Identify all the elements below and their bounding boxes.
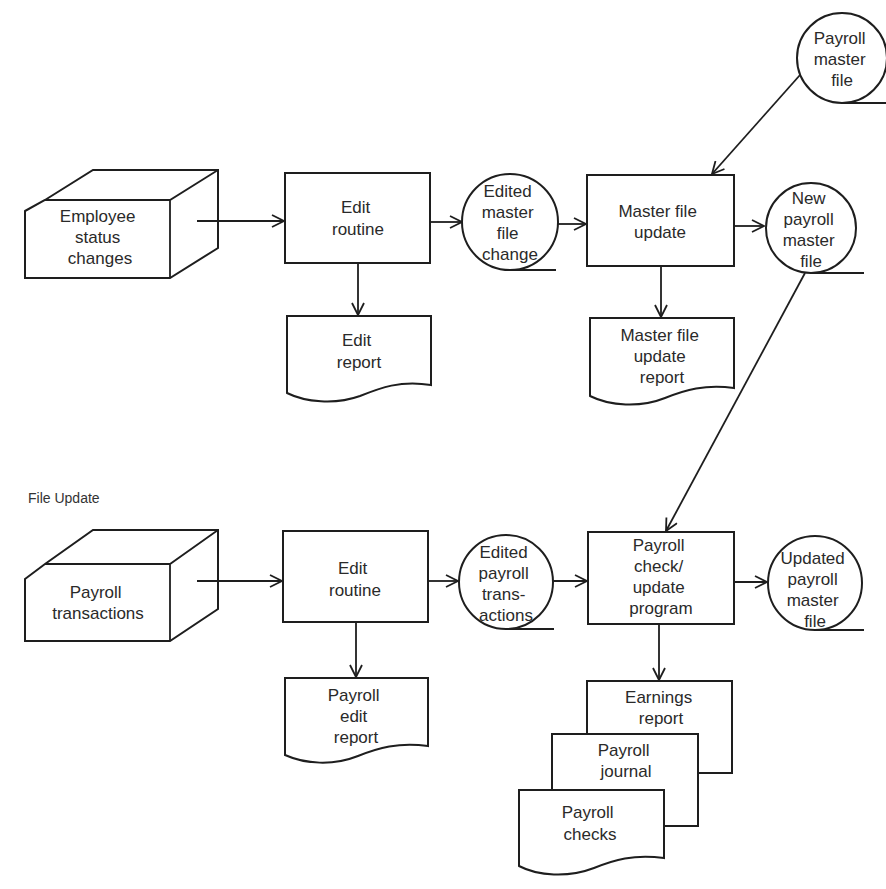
new-payroll-master-file-tape: New payroll master file bbox=[766, 183, 864, 273]
payroll-system-flowchart: Employee status changes Edit routine Edi… bbox=[0, 0, 886, 889]
edit-routine-process-bottom: Edit routine bbox=[283, 531, 428, 622]
employee-status-changes-input: Employee status changes bbox=[25, 170, 218, 278]
edited-payroll-transactions-tape: Edited payroll trans- actions bbox=[459, 535, 554, 629]
edit-routine-process-top: Edit routine bbox=[285, 173, 430, 263]
master-file-update-report-document: Master file update report bbox=[590, 318, 734, 405]
payroll-master-file-tape: Payroll master file bbox=[797, 13, 886, 103]
edited-master-file-change-tape: Edited master file change bbox=[462, 174, 558, 270]
flow-arrow bbox=[666, 273, 805, 531]
master-file-update-process: Master file update bbox=[587, 175, 734, 266]
payroll-check-update-program-process: Payroll check/ update program bbox=[588, 532, 734, 624]
section-label-file-update: File Update bbox=[28, 490, 100, 506]
payroll-checks-document: Payroll checks bbox=[519, 790, 664, 875]
edit-report-document: Edit report bbox=[287, 316, 431, 401]
payroll-transactions-input: Payroll transactions bbox=[25, 530, 218, 641]
updated-payroll-master-file-tape: Updated payroll master file bbox=[768, 536, 864, 631]
flow-arrow bbox=[712, 75, 800, 174]
payroll-edit-report-document: Payroll edit report bbox=[285, 678, 428, 763]
